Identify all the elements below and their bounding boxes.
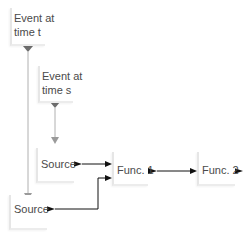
edge-event-t-to-source-lower <box>23 46 33 200</box>
triangle-down-icon <box>23 46 33 52</box>
edge-source-upper-to-func1 <box>73 161 112 167</box>
node-label: Func. 1 <box>117 164 154 177</box>
node-func-2[interactable]: Func. 2 <box>197 152 235 186</box>
edge-event-s-to-source-upper <box>50 102 60 144</box>
arrowhead-down-icon <box>51 137 59 144</box>
arrowhead-right-icon <box>105 161 112 167</box>
node-label-line2: time s <box>42 84 71 97</box>
node-event-time-t[interactable]: Event at time t <box>10 8 45 46</box>
node-label: Source <box>14 203 49 216</box>
arrowhead-right-icon <box>190 168 197 174</box>
node-event-time-s[interactable]: Event at time s <box>38 66 73 103</box>
node-label-line1: Event at <box>42 70 82 83</box>
node-label-line2: time t <box>14 26 41 39</box>
node-label: Func. 2 <box>202 164 239 177</box>
node-label-line1: Event at <box>14 12 54 25</box>
edge-func1-to-func2 <box>148 168 197 174</box>
arrowhead-right-icon <box>105 175 112 181</box>
node-label: Source <box>41 158 76 171</box>
node-func-1[interactable]: Func. 1 <box>112 152 148 186</box>
node-source-lower[interactable]: Source <box>9 195 47 230</box>
node-source-upper[interactable]: Source <box>36 148 74 183</box>
